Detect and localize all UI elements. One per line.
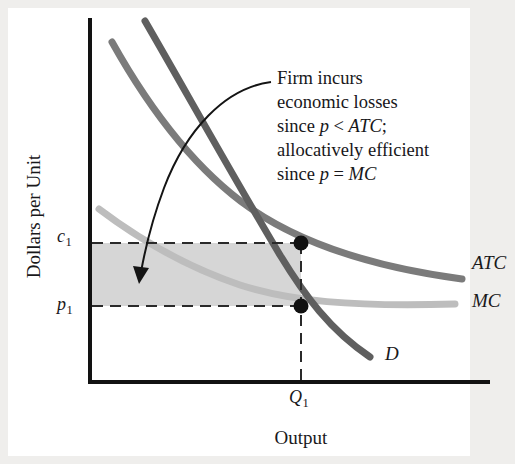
y-tick-label-c1: c1	[57, 227, 72, 248]
annotation-text: Firm incurs economic losses since p < AT…	[277, 66, 492, 186]
curve-label-d: D	[385, 344, 399, 363]
point-c1-atc	[294, 236, 309, 251]
economics-diagram: Firm incurs economic losses since p < AT…	[0, 0, 515, 464]
annotation-line-1: Firm incurs	[277, 66, 492, 90]
annotation-line-2: economic losses	[277, 90, 492, 114]
curve-label-mc: MC	[472, 291, 501, 310]
point-p1-mc-d	[294, 299, 309, 314]
annotation-line-4: allocatively efficient	[277, 138, 492, 162]
x-axis-title: Output	[216, 428, 386, 447]
curve-label-atc: ATC	[472, 253, 506, 272]
annotation-line-5: since p = MC	[277, 162, 492, 186]
y-tick-label-p1: p1	[57, 295, 73, 316]
economic-loss-area	[92, 243, 301, 306]
y-axis-title: Dollars per Unit	[24, 137, 43, 297]
x-tick-label-q1: Q1	[289, 388, 309, 409]
annotation-line-3: since p < ATC;	[277, 114, 492, 138]
